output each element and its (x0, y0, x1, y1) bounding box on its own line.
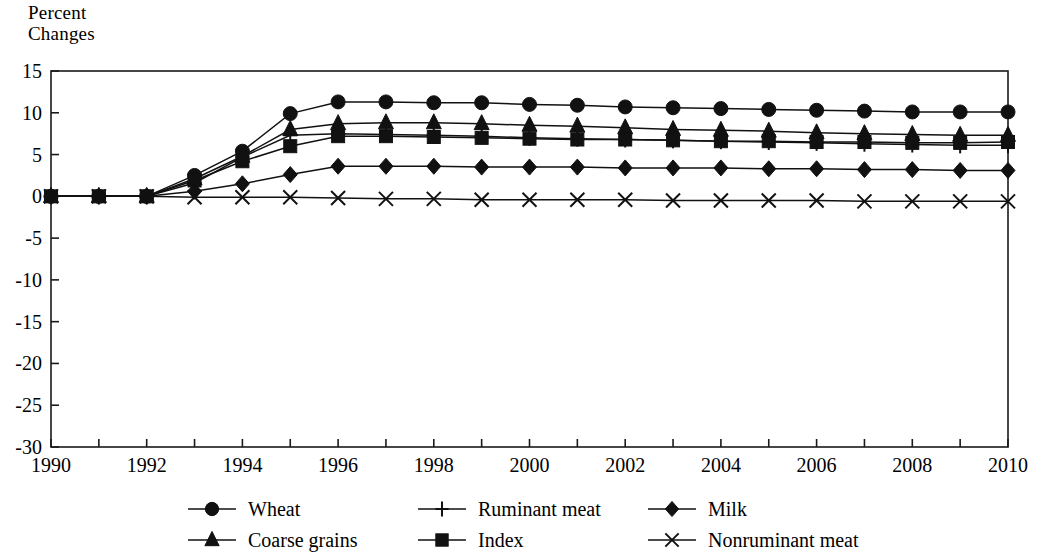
legend-item-ruminant-meat[interactable]: Ruminant meat (418, 498, 601, 520)
marker-diamond (810, 161, 824, 177)
x-tick-label: 1990 (31, 454, 71, 476)
marker-square (379, 130, 392, 143)
y-tick-label: 10 (22, 102, 42, 124)
marker-diamond (665, 501, 678, 516)
marker-diamond (235, 176, 249, 192)
x-tick-label: 2002 (605, 454, 645, 476)
marker-triangle (713, 121, 728, 136)
marker-triangle (205, 531, 219, 545)
marker-circle (331, 95, 345, 109)
marker-circle (205, 502, 218, 515)
marker-square (436, 534, 448, 546)
marker-triangle (570, 117, 585, 132)
marker-square (762, 135, 775, 148)
y-tick-label: -15 (15, 311, 42, 333)
marker-circle (810, 103, 824, 117)
x-tick-label: 1994 (222, 454, 262, 476)
marker-diamond (1001, 162, 1015, 178)
legend-label: Index (478, 529, 524, 551)
marker-square (427, 131, 440, 144)
marker-circle (618, 100, 632, 114)
marker-circle (379, 95, 393, 109)
marker-triangle (666, 120, 681, 135)
legend-label: Ruminant meat (478, 498, 601, 520)
legend-label: Wheat (248, 498, 301, 520)
x-tick-label: 1996 (318, 454, 358, 476)
x-tick-label: 2000 (510, 454, 550, 476)
marker-triangle (283, 120, 298, 135)
marker-square (475, 131, 488, 144)
legend-item-nonruminant-meat[interactable]: Nonruminant meat (648, 529, 859, 551)
marker-triangle (378, 114, 393, 129)
marker-circle (523, 97, 537, 111)
legend-label: Milk (708, 498, 747, 520)
marker-triangle (474, 115, 489, 130)
marker-diamond (905, 162, 919, 178)
marker-square (810, 136, 823, 149)
x-tick-label: 2006 (797, 454, 837, 476)
marker-diamond (618, 160, 632, 176)
marker-square (906, 136, 919, 149)
marker-triangle (426, 114, 441, 129)
y-tick-label: 15 (22, 60, 42, 82)
marker-diamond (523, 159, 537, 175)
marker-diamond (475, 159, 489, 175)
marker-square (571, 133, 584, 146)
marker-circle (1001, 105, 1015, 119)
y-tick-label: -20 (15, 352, 42, 374)
marker-diamond (666, 160, 680, 176)
marker-circle (953, 105, 967, 119)
marker-square (619, 133, 632, 146)
chart-container: Percent Changes 151050-5-10-15-20-25-301… (0, 0, 1044, 559)
x-tick-label: 2004 (701, 454, 741, 476)
marker-circle (762, 102, 776, 116)
marker-diamond (857, 162, 871, 178)
marker-circle (714, 102, 728, 116)
y-tick-label: 5 (32, 144, 42, 166)
marker-diamond (427, 158, 441, 174)
marker-square (188, 174, 201, 187)
marker-circle (666, 101, 680, 115)
marker-circle (570, 98, 584, 112)
legend-item-milk[interactable]: Milk (648, 498, 747, 520)
marker-circle (427, 96, 441, 110)
y-tick-label: -5 (25, 227, 42, 249)
x-tick-label: 2010 (988, 454, 1028, 476)
marker-square (332, 130, 345, 143)
marker-diamond (379, 158, 393, 174)
marker-square (284, 140, 297, 153)
marker-diamond (953, 162, 967, 178)
marker-triangle (331, 115, 346, 130)
y-tick-label: 0 (32, 185, 42, 207)
y-tick-label: -10 (15, 269, 42, 291)
legend-label: Coarse grains (248, 529, 358, 552)
legend-item-index[interactable]: Index (418, 529, 524, 551)
marker-square (236, 155, 249, 168)
line-chart: 151050-5-10-15-20-25-3019901992199419961… (0, 0, 1044, 559)
marker-circle (905, 105, 919, 119)
marker-diamond (570, 159, 584, 175)
marker-square (523, 132, 536, 145)
legend: WheatRuminant meatMilkCoarse grainsIndex… (188, 498, 859, 552)
x-tick-label: 1998 (414, 454, 454, 476)
marker-circle (283, 107, 297, 121)
series-nonruminant-meat (44, 189, 1015, 208)
marker-square (858, 136, 871, 149)
marker-diamond (762, 161, 776, 177)
marker-square (667, 134, 680, 147)
legend-item-wheat[interactable]: Wheat (188, 498, 301, 520)
marker-diamond (283, 167, 297, 183)
marker-square (954, 136, 967, 149)
marker-square (1002, 136, 1015, 149)
y-tick-label: -25 (15, 394, 42, 416)
marker-diamond (714, 160, 728, 176)
legend-item-coarse-grains[interactable]: Coarse grains (188, 529, 358, 552)
marker-diamond (331, 158, 345, 174)
x-tick-label: 1992 (127, 454, 167, 476)
marker-circle (475, 96, 489, 110)
marker-triangle (522, 116, 537, 131)
marker-triangle (618, 119, 633, 134)
marker-square (714, 135, 727, 148)
marker-circle (857, 104, 871, 118)
legend-label: Nonruminant meat (708, 529, 859, 551)
